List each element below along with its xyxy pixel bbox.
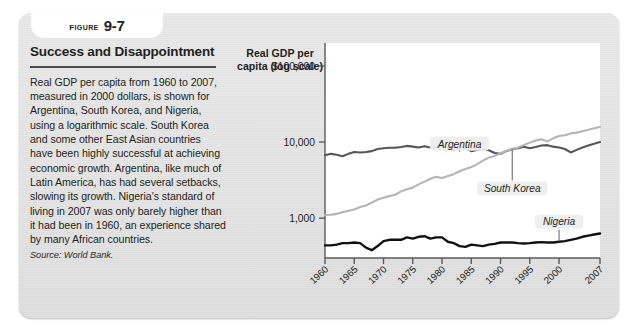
figure-text-column: Success and Disappointment Real GDP per … — [30, 45, 226, 260]
y-tick-label: $100,000 — [272, 61, 315, 72]
figure-number: 9-7 — [104, 17, 125, 34]
x-tick-label: 1995 — [512, 263, 535, 286]
x-axis-title: Year — [576, 294, 598, 295]
x-tick-label: 1960 — [307, 263, 330, 286]
figure-number-tab: FIGURE 9-7 — [31, 13, 163, 38]
figure-title: Success and Disappointment — [30, 45, 226, 60]
annotation-text: South Korea — [484, 183, 541, 194]
line-chart-svg: $100,00010,0001,000196019651970197519801… — [228, 43, 610, 295]
figure-caption-body: Real GDP per capita from 1960 to 2007, m… — [30, 75, 226, 247]
x-tick-label: 1980 — [424, 263, 447, 286]
x-tick-label: 1990 — [483, 263, 506, 286]
chart-area: Real GDP per capita (log scale) $100,000… — [228, 43, 610, 295]
x-tick-label: 1965 — [337, 263, 360, 286]
x-tick-label: 1970 — [366, 263, 389, 286]
y-tick-label: 1,000 — [289, 213, 315, 224]
x-tick-label: 2000 — [541, 263, 564, 286]
figure-9-7: FIGURE 9-7 Success and Disappointment Re… — [0, 0, 636, 332]
figure-label-word: FIGURE — [69, 20, 98, 32]
series-annotation-argentina: Argentina — [430, 137, 490, 152]
y-tick-label: 10,000 — [284, 137, 316, 148]
x-tick-label: 1975 — [395, 263, 418, 286]
x-tick-label: 2007 — [582, 263, 605, 286]
x-tick-label: 1985 — [454, 263, 477, 286]
title-divider — [30, 66, 216, 68]
annotation-text: Argentina — [437, 139, 482, 150]
annotation-text: Nigeria — [543, 216, 576, 227]
figure-source: Source: World Bank. — [30, 250, 226, 260]
